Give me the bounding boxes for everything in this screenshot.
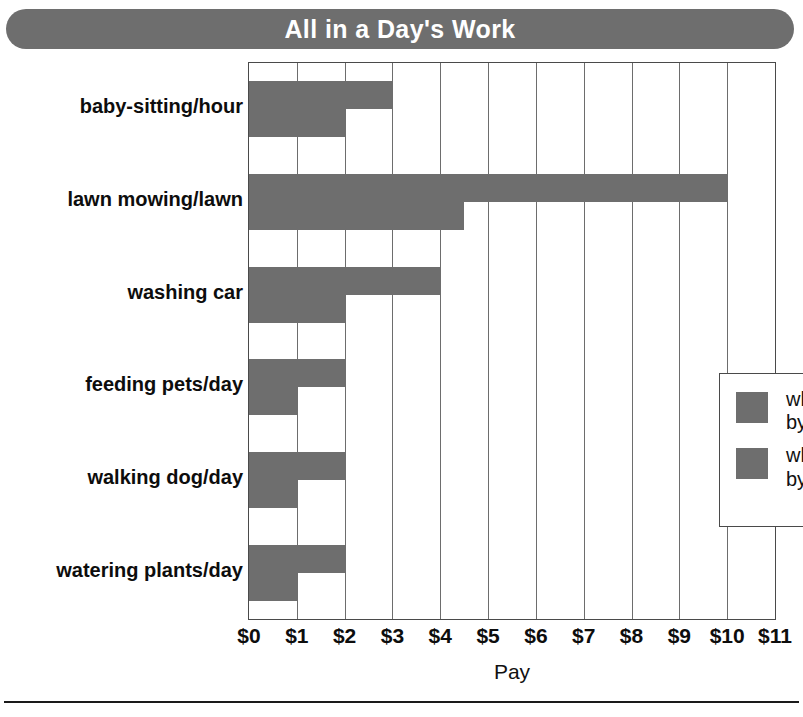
bar-group xyxy=(249,81,775,137)
gridline xyxy=(440,63,441,619)
bar-group xyxy=(249,267,775,323)
bar-neighbors xyxy=(249,545,345,573)
page-title: All in a Day's Work xyxy=(284,15,515,44)
x-tick-label: $0 xyxy=(237,624,260,648)
bar-family xyxy=(249,202,464,230)
x-tick-label: $3 xyxy=(381,624,404,648)
category-label: washing car xyxy=(3,281,243,304)
legend-item: what kids are paid by their family xyxy=(736,444,803,490)
chart-container: baby-sitting/hourlawn mowing/lawnwashing… xyxy=(0,58,803,678)
bar-family xyxy=(249,573,297,601)
bar-group xyxy=(249,359,775,415)
x-tick-label: $8 xyxy=(620,624,643,648)
bar-family xyxy=(249,295,345,323)
bar-neighbors xyxy=(249,359,345,387)
bar-family xyxy=(249,387,297,415)
gridline xyxy=(297,63,298,619)
gridline xyxy=(632,63,633,619)
bar-group xyxy=(249,452,775,508)
chart-legend: what kids are paid by their neighbors wh… xyxy=(719,373,803,527)
chart-title-banner: All in a Day's Work xyxy=(6,9,794,49)
bar-family xyxy=(249,480,297,508)
legend-label-neighbors-line2: by their neighbors xyxy=(786,411,803,433)
x-tick-label: $2 xyxy=(333,624,356,648)
bar-neighbors xyxy=(249,81,392,109)
legend-label-neighbors-line1: what kids are paid xyxy=(786,388,803,410)
gridline xyxy=(345,63,346,619)
x-axis-title: Pay xyxy=(248,660,776,684)
legend-label-family-line2: by their family xyxy=(786,468,803,490)
gridline xyxy=(536,63,537,619)
legend-item: what kids are paid by their neighbors xyxy=(736,388,803,434)
footer-divider xyxy=(4,701,799,703)
bar-neighbors xyxy=(249,452,345,480)
gridline xyxy=(727,63,728,619)
x-tick-label: $9 xyxy=(668,624,691,648)
legend-label-neighbors: what kids are paid by their neighbors xyxy=(786,388,803,434)
plot-area: what kids are paid by their neighbors wh… xyxy=(248,62,776,620)
x-tick-label: $5 xyxy=(476,624,499,648)
bar-family xyxy=(249,109,345,137)
bar-neighbors xyxy=(249,174,727,202)
x-tick-label: $4 xyxy=(429,624,452,648)
legend-label-family-line1: what kids are paid xyxy=(786,444,803,466)
category-axis-labels: baby-sitting/hourlawn mowing/lawnwashing… xyxy=(0,62,243,620)
x-tick-label: $6 xyxy=(524,624,547,648)
legend-swatch-family xyxy=(736,448,768,479)
legend-label-family: what kids are paid by their family xyxy=(786,444,803,490)
legend-swatch-neighbors xyxy=(736,392,768,423)
x-tick-label: $1 xyxy=(285,624,308,648)
category-label: walking dog/day xyxy=(3,466,243,489)
x-tick-label: $10 xyxy=(710,624,745,648)
x-tick-label: $11 xyxy=(758,624,792,648)
gridline xyxy=(392,63,393,619)
gridline xyxy=(488,63,489,619)
x-axis-tick-labels: $0$1$2$3$4$5$6$7$8$9$10$11 xyxy=(0,624,803,658)
category-label: watering plants/day xyxy=(3,559,243,582)
category-label: lawn mowing/lawn xyxy=(3,188,243,211)
bar-group xyxy=(249,174,775,230)
bar-group xyxy=(249,545,775,601)
gridline xyxy=(679,63,680,619)
category-label: feeding pets/day xyxy=(3,373,243,396)
bar-neighbors xyxy=(249,267,440,295)
category-label: baby-sitting/hour xyxy=(3,95,243,118)
gridline xyxy=(584,63,585,619)
x-tick-label: $7 xyxy=(572,624,595,648)
